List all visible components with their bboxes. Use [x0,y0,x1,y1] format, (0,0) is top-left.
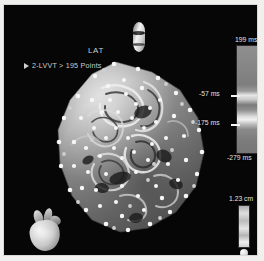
catheter-electrode-band-2 [132,43,145,46]
carto-lat-map-screen: LAT 2-LVVT > 195 Points 199 ms -57 ms -1… [0,0,264,261]
colorbar-tick-upper-mark [231,95,240,97]
map-type-label: LAT [88,46,104,55]
colorbar-gradient[interactable] [237,46,257,153]
point-dot-icon [240,249,248,255]
colorbar-max-label: 199 ms [235,36,257,43]
catheter-electrode-band-1 [132,31,145,35]
colorbar-tick-lower-mark [231,124,240,126]
points-legend-label: 2-LVVT > 195 Points [32,61,102,70]
colorbar-tick-lower-label: -175 ms [195,119,220,126]
scale-bar-gradient [239,206,249,247]
distance-scale-bar[interactable]: 1.23 cm [215,195,257,255]
local-activation-time-colorbar[interactable]: 199 ms -57 ms -175 ms -279 ms [215,35,257,167]
points-legend-row[interactable]: 2-LVVT > 195 Points [24,61,102,70]
catheter-electrode-icon[interactable] [131,22,147,52]
play-triangle-icon [24,63,29,69]
catheter-shaft [133,22,145,52]
heart-highlight [31,228,57,242]
3d-map-viewport[interactable]: LAT 2-LVVT > 195 Points 199 ms -57 ms -1… [4,5,257,255]
scale-bar-label: 1.23 cm [229,195,253,202]
colorbar-min-label: -279 ms [227,154,252,161]
cardiac-chamber-mesh[interactable] [48,60,212,235]
colorbar-tick-upper-label: -57 ms [199,90,220,97]
heart-orientation-icon[interactable] [26,208,66,254]
